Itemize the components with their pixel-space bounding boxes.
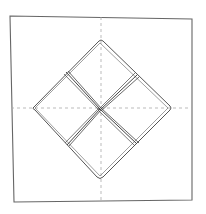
origami-diagram bbox=[0, 0, 206, 214]
fold-lines bbox=[64, 71, 139, 146]
